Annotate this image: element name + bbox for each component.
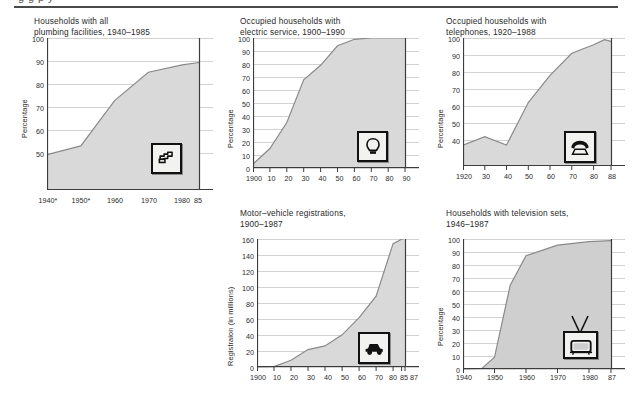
- plot-area-plumbing: [47, 38, 213, 190]
- car-icon: [358, 332, 390, 364]
- chart-panel-motorvehicle: Motor–vehicle registrations, 1900–1987 R…: [228, 208, 428, 398]
- ytick-telephone-40: 40: [438, 137, 460, 146]
- ytick-tv-70: 70: [438, 275, 460, 284]
- ytick-mv-140: 140: [232, 252, 254, 261]
- running-head: g g p y: [18, 0, 54, 3]
- ytick-mv-60: 60: [232, 316, 254, 325]
- chart-panel-telephone: Occupied households with telephones, 192…: [434, 16, 634, 198]
- chart-title-telephone: Occupied households with telephones, 192…: [446, 16, 631, 37]
- chart-title-television: Households with television sets, 1946–19…: [446, 208, 634, 229]
- xtick-mv-6: 60: [353, 373, 371, 382]
- plot-svg-television: [463, 239, 625, 381]
- ytick-telephone-100: 100: [438, 35, 460, 44]
- plot-area-telephone: [463, 38, 625, 190]
- ytick-electric-20: 20: [228, 139, 250, 148]
- chart-panel-television: Households with television sets, 1946–19…: [434, 208, 634, 398]
- ytick-electric-50: 50: [228, 100, 250, 109]
- chart-panel-electric: Occupied households with electric servic…: [228, 16, 428, 198]
- xtick-mv-2: 20: [285, 373, 303, 382]
- ytick-plumbing-80: 80: [22, 81, 44, 90]
- ytick-mv-160: 160: [232, 236, 254, 245]
- ytick-tv-60: 60: [438, 288, 460, 297]
- ytick-mv-120: 120: [232, 268, 254, 277]
- television-icon: [563, 331, 598, 359]
- chart-panel-plumbing: Households with all plumbing facilities,…: [22, 16, 222, 198]
- ytick-electric-0: 0: [228, 165, 250, 174]
- xtick-mv-4: 40: [319, 373, 337, 382]
- xtick-tv-0: 1940: [450, 373, 478, 382]
- ytick-plumbing-50: 50: [22, 150, 44, 159]
- ytick-plumbing-100: 100: [22, 35, 44, 44]
- ytick-tv-50: 50: [438, 301, 460, 310]
- chart-title-motorvehicle: Motor–vehicle registrations, 1900–1987: [240, 208, 425, 229]
- ytick-electric-30: 30: [228, 126, 250, 135]
- ytick-tv-30: 30: [438, 327, 460, 336]
- ytick-telephone-80: 80: [438, 69, 460, 78]
- ytick-mv-100: 100: [232, 284, 254, 293]
- ytick-tv-80: 80: [438, 262, 460, 271]
- xtick-telephone-2: 40: [498, 172, 518, 181]
- xtick-tv-2: 1960: [513, 373, 541, 382]
- plot-svg-electric: [253, 38, 419, 190]
- ytick-tv-90: 90: [438, 249, 460, 258]
- ytick-tv-40: 40: [438, 314, 460, 323]
- plot-area-electric: [253, 38, 419, 190]
- ytick-tv-10: 10: [438, 353, 460, 362]
- ytick-plumbing-90: 90: [22, 58, 44, 67]
- header-rule: [14, 6, 618, 8]
- xtick-mv-1: 10: [268, 373, 286, 382]
- xtick-mv-10: 87: [405, 373, 423, 382]
- plot-svg-telephone: [463, 38, 625, 190]
- ytick-electric-10: 10: [228, 152, 250, 161]
- lightbulb-icon: [357, 131, 388, 162]
- ytick-plumbing-60: 60: [22, 127, 44, 136]
- ytick-telephone-70: 70: [438, 86, 460, 95]
- xtick-mv-5: 50: [336, 373, 354, 382]
- ytick-electric-100: 100: [228, 35, 250, 44]
- xtick-telephone-4: 60: [541, 172, 561, 181]
- faucet-icon: [151, 143, 182, 174]
- xtick-telephone-0: 1920: [450, 172, 478, 181]
- xtick-plumbing-5: 85: [185, 196, 211, 205]
- ytick-plumbing-70: 70: [22, 104, 44, 113]
- plot-svg-motorvehicle: [257, 239, 419, 381]
- xtick-telephone-3: 50: [519, 172, 539, 181]
- xtick-tv-4: 1980: [576, 373, 604, 382]
- plot-area-television: [463, 239, 625, 381]
- xtick-tv-3: 1970: [544, 373, 572, 382]
- plot-svg-plumbing: [47, 38, 213, 190]
- ytick-mv-40: 40: [232, 332, 254, 341]
- xtick-telephone-6: 80: [584, 172, 604, 181]
- ytick-telephone-90: 90: [438, 52, 460, 61]
- xtick-tv-1: 1950: [481, 373, 509, 382]
- xtick-mv-3: 30: [302, 373, 320, 382]
- ytick-electric-80: 80: [228, 61, 250, 70]
- ytick-electric-70: 70: [228, 74, 250, 83]
- xtick-telephone-1: 30: [476, 172, 496, 181]
- ytick-mv-80: 80: [232, 300, 254, 309]
- xtick-electric-9: 90: [397, 174, 416, 183]
- xtick-telephone-5: 70: [563, 172, 583, 181]
- ytick-electric-90: 90: [228, 48, 250, 57]
- ytick-mv-20: 20: [232, 348, 254, 357]
- plot-area-motorvehicle: [257, 239, 419, 381]
- chart-title-electric: Occupied households with electric servic…: [240, 16, 425, 37]
- telephone-icon: [564, 131, 596, 163]
- chart-title-plumbing: Households with all plumbing facilities,…: [34, 16, 214, 37]
- ytick-tv-20: 20: [438, 340, 460, 349]
- ytick-telephone-60: 60: [438, 103, 460, 112]
- ytick-telephone-50: 50: [438, 120, 460, 129]
- ytick-mv-0: 0: [232, 364, 254, 373]
- figure-page: g g p y Households with all plumbing fac…: [0, 0, 634, 408]
- ytick-tv-100: 100: [438, 236, 460, 245]
- xtick-tv-5: 87: [602, 373, 622, 382]
- xtick-telephone-7: 88: [602, 172, 622, 181]
- ytick-electric-40: 40: [228, 113, 250, 122]
- antenna-icon: [569, 315, 591, 333]
- ytick-electric-60: 60: [228, 87, 250, 96]
- running-head-left: g g p y: [18, 0, 54, 3]
